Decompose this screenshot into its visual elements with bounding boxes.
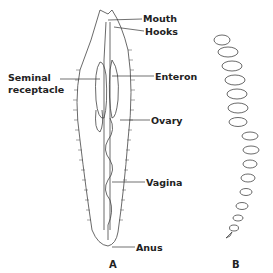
panel-label-a: A bbox=[109, 259, 117, 270]
organism-a bbox=[73, 10, 135, 246]
label-mouth: Mouth bbox=[143, 13, 177, 24]
label-seminal-line1: Seminal bbox=[8, 72, 51, 83]
diagram-drawing bbox=[0, 0, 273, 273]
organism-b bbox=[214, 35, 259, 238]
label-ovary: Ovary bbox=[151, 115, 183, 126]
panel-label-b: B bbox=[232, 259, 240, 270]
label-hooks: Hooks bbox=[145, 26, 178, 37]
label-enteron: Enteron bbox=[155, 71, 197, 82]
label-vagina: Vagina bbox=[146, 177, 182, 188]
label-anus: Anus bbox=[136, 242, 163, 253]
label-seminal-line2: receptacle bbox=[8, 84, 64, 95]
